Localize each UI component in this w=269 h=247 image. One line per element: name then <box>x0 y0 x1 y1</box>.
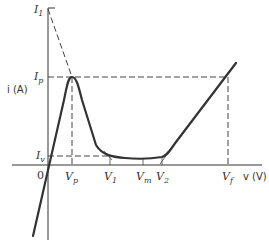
tunnel-diode-iv-diagram: I1 Ip Iv i (A) 0 Vp V1 Vm V2 Vf v (V) <box>0 0 269 247</box>
i1-tangent-dashed-line <box>48 9 72 77</box>
i1-label: I1 <box>33 3 43 18</box>
origin-label: 0 <box>37 169 44 182</box>
v2-label: V2 <box>156 170 169 185</box>
iv-curve <box>33 63 236 236</box>
y-axis-label: i (A) <box>7 84 28 95</box>
vm-label: Vm <box>136 170 152 185</box>
iv-label: Iv <box>35 149 45 164</box>
v1-label: V1 <box>104 170 117 185</box>
vp-label: Vp <box>65 170 78 185</box>
ip-label: Ip <box>33 70 43 85</box>
x-axis-label: v (V) <box>243 171 267 182</box>
vf-label: Vf <box>222 170 235 185</box>
